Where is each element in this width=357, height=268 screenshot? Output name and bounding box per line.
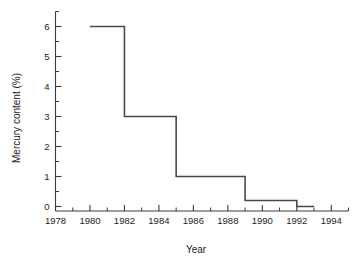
chart-figure: 0123456 19781980198219841986198819901992…	[0, 0, 357, 268]
y-axis-title: Mercury content (%)	[11, 73, 22, 163]
y-axis-tick-label: 4	[44, 81, 49, 92]
step-chart-plot: 0123456 19781980198219841986198819901992…	[0, 0, 357, 268]
y-axis-tick-label: 5	[44, 51, 49, 62]
x-axis-title: Year	[186, 244, 207, 255]
y-axis-tick-label: 3	[44, 111, 49, 122]
x-axis-tick-label: 1984	[148, 215, 169, 226]
x-axis-tick-label: 1994	[321, 215, 342, 226]
y-axis-tick-label: 6	[44, 21, 49, 32]
y-axis-tick-label: 1	[44, 171, 49, 182]
x-axis-tick-label: 1982	[114, 215, 135, 226]
x-axis-tick-label: 1980	[79, 215, 100, 226]
x-axis-tick-label: 1978	[45, 215, 66, 226]
y-axis-tick-label: 2	[44, 141, 49, 152]
chart-background	[0, 0, 357, 268]
x-axis-tick-label: 1988	[217, 215, 238, 226]
x-axis-tick-label: 1990	[252, 215, 273, 226]
y-axis-tick-label: 0	[44, 201, 49, 212]
x-axis-tick-label: 1992	[286, 215, 307, 226]
x-axis-tick-label: 1986	[183, 215, 204, 226]
